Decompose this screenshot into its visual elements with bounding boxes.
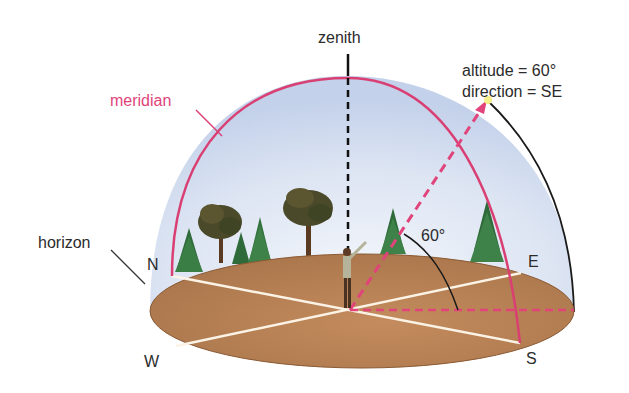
meridian-leader [196,110,222,136]
north-label: N [147,256,159,273]
meridian-label: meridian [110,92,171,109]
horizon-label: horizon [38,234,90,251]
south-label: S [526,350,537,367]
angle-label: 60° [421,227,445,244]
horizon-leader [111,250,145,284]
west-label: W [144,353,160,370]
zenith-label: zenith [318,29,361,46]
celestial-sphere-diagram: zenith meridian horizon N W E S 60° alti… [0,0,629,393]
direction-text: direction = SE [462,83,562,100]
east-label: E [528,253,539,270]
altitude-text: altitude = 60° [462,62,556,79]
